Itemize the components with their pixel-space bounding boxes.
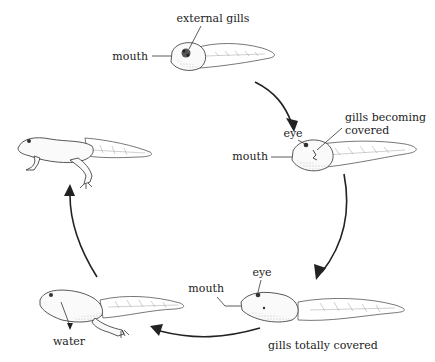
tadpole-drawing-2 [292, 140, 416, 171]
stage-1-tadpole: external gills mouth [112, 12, 274, 70]
tadpole-drawing-3 [241, 292, 404, 322]
front-leg [26, 156, 40, 170]
external-gills-icon [182, 49, 191, 58]
froglet-foot-icon [80, 183, 92, 189]
mouth-leader-3 [217, 297, 241, 306]
eye-icon [27, 139, 31, 143]
label-gills-becoming: gills becoming [345, 111, 426, 124]
eye-icon [49, 293, 53, 297]
arrow-stage4-to-stage5 [64, 184, 97, 277]
hind-leg [92, 318, 124, 336]
tadpole-drawing-1 [171, 43, 274, 71]
label-covered: covered [345, 124, 389, 137]
spiracle-icon [263, 307, 265, 309]
label-water: water [53, 335, 86, 348]
label-eye-2: eye [283, 127, 302, 140]
hind-leg-froglet [70, 158, 92, 184]
tadpole-life-cycle-diagram: external gills mouth eye gills becoming … [0, 0, 435, 362]
froglet-drawing [18, 138, 152, 189]
label-mouth-2: mouth [232, 150, 268, 163]
arrow-stage2-to-stage3 [314, 174, 347, 280]
arrow-stage3-to-stage4 [150, 324, 260, 337]
label-mouth-1: mouth [112, 50, 148, 63]
arrow-stage1-to-stage2 [255, 82, 298, 132]
eye-icon [256, 293, 261, 298]
label-mouth-3: mouth [188, 282, 224, 295]
stage-3-tadpole: eye mouth gills totally covered [188, 266, 404, 352]
stage-2-tadpole: eye gills becoming covered mouth [232, 111, 426, 171]
label-external-gills: external gills [177, 12, 250, 25]
eye-leader-3 [258, 280, 261, 292]
stage-5-froglet [18, 138, 152, 189]
stage-4-tadpole: water [40, 290, 184, 348]
water-arrowhead [67, 323, 73, 330]
label-gills-totally-covered: gills totally covered [268, 339, 378, 352]
label-eye-3: eye [252, 266, 271, 279]
